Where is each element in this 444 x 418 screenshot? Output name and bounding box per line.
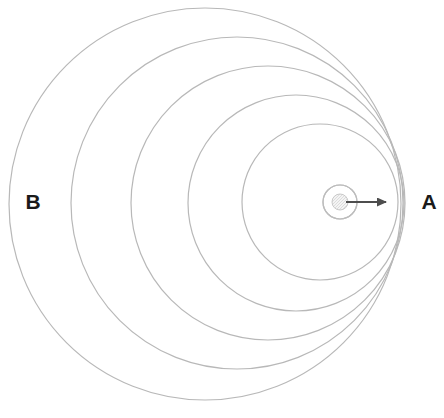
doppler-wavefront-figure: A B [0, 0, 444, 418]
doppler-diagram-canvas: A B [0, 0, 444, 418]
label-b: B [25, 190, 40, 213]
figure-background [0, 0, 444, 418]
label-a: A [421, 190, 436, 213]
source-dot-icon [332, 194, 348, 210]
